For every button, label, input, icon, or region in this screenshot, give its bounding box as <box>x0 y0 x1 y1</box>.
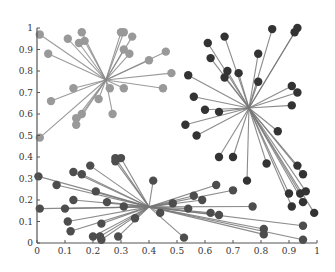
cluster-upper-left-point-1 <box>44 50 52 58</box>
cluster-upper-right-point-17 <box>288 101 296 109</box>
spoke-lines <box>38 28 314 240</box>
cluster-upper-right-point-16 <box>293 88 301 96</box>
cluster-upper-right-spoke-24 <box>247 108 249 181</box>
cluster-upper-left-point-18 <box>47 97 55 105</box>
cluster-lower-point-17 <box>131 214 139 222</box>
x-tick-label: 0.7 <box>226 246 241 256</box>
cluster-lower-point-28 <box>198 196 206 204</box>
cluster-upper-left-point-5 <box>80 37 88 45</box>
cluster-upper-right-point-19 <box>192 131 200 139</box>
cluster-lower-point-3 <box>86 161 94 169</box>
cluster-upper-right-point-24 <box>243 176 251 184</box>
cluster-lower-point-29 <box>184 204 192 212</box>
y-tick-label: 0.8 <box>19 66 34 76</box>
cluster-lower-point-34 <box>299 222 307 230</box>
cluster-upper-right-spoke-32 <box>249 108 314 213</box>
cluster-upper-left-point-13 <box>167 69 175 77</box>
cluster-upper-right-point-30 <box>299 198 307 206</box>
y-tick-label: 1 <box>27 23 33 33</box>
cluster-upper-left-point-15 <box>120 84 128 92</box>
cluster-upper-right-point-4 <box>220 32 228 40</box>
y-tick-label: 0.9 <box>19 45 34 55</box>
cluster-upper-right-point-13 <box>201 106 209 114</box>
cluster-lower-point-9 <box>92 187 100 195</box>
cluster-lower-point-19 <box>66 227 74 235</box>
cluster-lower-point-30 <box>206 209 214 217</box>
y-tick-label: 0 <box>27 238 33 248</box>
cluster-upper-right-point-5 <box>254 50 262 58</box>
x-tick-label: 0.2 <box>86 246 100 256</box>
cluster-lower-point-18 <box>156 209 164 217</box>
x-tick-label: 0.6 <box>198 246 213 256</box>
cluster-lower-spoke-3 <box>90 166 149 207</box>
cluster-lower-point-7 <box>149 176 157 184</box>
cluster-upper-right-point-0 <box>268 25 276 33</box>
x-tick-label: 1 <box>314 246 320 256</box>
cluster-lower-point-15 <box>64 217 72 225</box>
cluster-upper-right-point-22 <box>229 153 237 161</box>
cluster-upper-right-spoke-30 <box>249 108 303 202</box>
y-tick-label: 0.1 <box>19 217 33 227</box>
cluster-lower-point-33 <box>248 202 256 210</box>
y-tick-label: 0.3 <box>19 174 34 184</box>
cluster-upper-right-point-18 <box>181 121 189 129</box>
cluster-lower-point-2 <box>111 157 119 165</box>
y-tick-label: 0.7 <box>19 88 34 98</box>
cluster-upper-right-point-3 <box>204 39 212 47</box>
cluster-upper-right-point-12 <box>190 93 198 101</box>
cluster-lower-point-11 <box>103 198 111 206</box>
cluster-upper-right-point-2 <box>290 28 298 36</box>
y-tick-label: 0.6 <box>19 109 34 119</box>
data-points <box>34 24 318 244</box>
cluster-upper-right-point-6 <box>206 54 214 62</box>
x-tick-label: 0.1 <box>58 246 72 256</box>
cluster-lower-point-24 <box>169 199 177 207</box>
cluster-lower-point-5 <box>78 170 86 178</box>
x-tick-label: 0.5 <box>170 246 185 256</box>
cluster-lower-point-31 <box>215 211 223 219</box>
cluster-upper-right-point-31 <box>288 202 296 210</box>
cluster-upper-left-point-20 <box>108 110 116 118</box>
cluster-upper-right-point-21 <box>215 153 223 161</box>
x-tick-label: 0.3 <box>114 246 129 256</box>
cluster-upper-left-point-7 <box>120 28 128 36</box>
y-tick-label: 0.2 <box>19 195 33 205</box>
cluster-upper-right-point-14 <box>215 108 223 116</box>
cluster-upper-left-point-10 <box>125 50 133 58</box>
cluster-upper-right-point-26 <box>299 170 307 178</box>
cluster-upper-right-point-20 <box>274 127 282 135</box>
cluster-lower-point-25 <box>212 181 220 189</box>
cluster-lower-point-8 <box>52 181 60 189</box>
cluster-upper-right-point-27 <box>285 189 293 197</box>
cluster-lower-point-27 <box>190 192 198 200</box>
cluster-upper-right-spoke-20 <box>249 108 278 131</box>
cluster-upper-right-point-10 <box>184 71 192 79</box>
cluster-lower-point-16 <box>97 219 105 227</box>
cluster-upper-left-point-11 <box>162 47 170 55</box>
cluster-upper-left-spoke-13 <box>106 73 172 80</box>
cluster-lower-point-13 <box>61 204 69 212</box>
y-tick-label: 0.5 <box>19 131 34 141</box>
cluster-lower-point-10 <box>69 196 77 204</box>
cluster-lower-point-23 <box>114 232 122 240</box>
cluster-upper-right-spoke-0 <box>249 29 272 108</box>
x-tick-label: 0.9 <box>282 246 297 256</box>
cluster-upper-left-point-14 <box>159 84 167 92</box>
cluster-upper-right-point-15 <box>288 82 296 90</box>
cluster-lower-point-26 <box>229 186 237 194</box>
cluster-upper-left-spoke-10 <box>106 54 130 80</box>
cluster-upper-left-point-23 <box>72 121 80 129</box>
cluster-upper-left-point-3 <box>78 28 86 36</box>
x-tick-label: 0.4 <box>142 246 157 256</box>
cluster-lower-spoke-22 <box>101 207 149 240</box>
cluster-lower-point-14 <box>120 202 128 210</box>
cluster-lower-point-32 <box>180 233 188 241</box>
y-tick-label: 0.4 <box>19 152 34 162</box>
cluster-upper-right-spoke-29 <box>249 108 306 191</box>
cluster-lower-point-36 <box>260 230 268 238</box>
cluster-upper-left-point-16 <box>106 84 114 92</box>
scatter-chart: 00.10.20.30.40.50.60.70.80.91 00.10.20.3… <box>0 0 335 272</box>
cluster-upper-right-point-29 <box>302 187 310 195</box>
cluster-upper-left-point-12 <box>145 56 153 64</box>
x-tick-label: 0.8 <box>254 246 269 256</box>
